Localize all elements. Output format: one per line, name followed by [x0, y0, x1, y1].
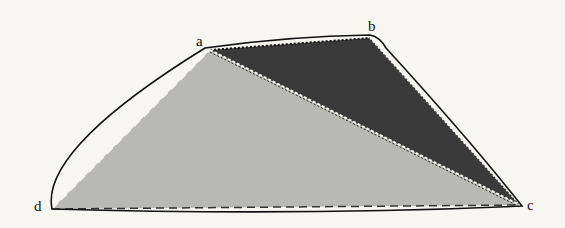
diagram-canvas: a b c d	[0, 0, 565, 228]
vertex-label-c: c	[527, 197, 534, 213]
vertex-label-a: a	[196, 33, 203, 49]
quadrilateral-diagram: a b c d	[0, 0, 565, 228]
vertex-label-b: b	[368, 18, 376, 34]
vertex-label-d: d	[34, 198, 42, 214]
